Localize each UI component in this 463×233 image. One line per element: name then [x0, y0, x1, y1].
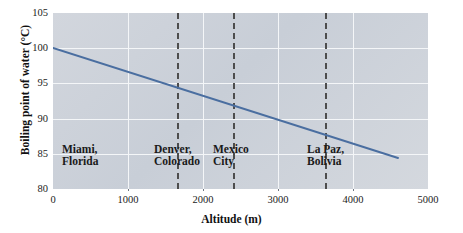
x-tick-label-1000: 1000	[103, 194, 153, 205]
x-tick-label-4000: 4000	[328, 194, 378, 205]
y-axis-label: Boiling point of water (°C)	[19, 10, 31, 170]
y-tick-label-90: 90	[26, 113, 48, 124]
x-tick-label-5000: 5000	[403, 194, 453, 205]
annotation-denver: Denver, Colorado	[154, 144, 200, 168]
annotation-miami: Miami, Florida	[62, 144, 98, 168]
annotation-la-paz: La Paz, Bolivia	[307, 144, 344, 168]
y-tick-label-80: 80	[26, 183, 48, 194]
annotation-mexico-city: Mexico City	[213, 144, 249, 168]
x-tick-label-2000: 2000	[178, 194, 228, 205]
annotation-mexico-city-line2: City	[213, 156, 249, 168]
annotation-miami-line2: Florida	[62, 156, 98, 168]
y-tick-label-105: 105	[26, 7, 48, 18]
annotation-la-paz-line2: Bolivia	[307, 156, 344, 168]
annotation-denver-line2: Colorado	[154, 156, 200, 168]
plot-area: Miami, Florida Denver, Colorado Mexico C…	[53, 13, 428, 189]
y-tick-label-100: 100	[26, 42, 48, 53]
x-tick-label-3000: 3000	[253, 194, 303, 205]
boiling-point-altitude-chart: Boiling point of water (°C) 105 100 95 9…	[0, 0, 463, 233]
x-tick-label-0: 0	[28, 194, 78, 205]
y-tick-label-85: 85	[26, 148, 48, 159]
x-axis-label: Altitude (m)	[0, 213, 463, 225]
y-tick-label-95: 95	[26, 77, 48, 88]
